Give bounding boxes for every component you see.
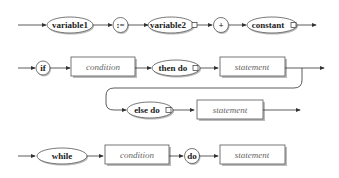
node-variable1: variable1	[47, 17, 94, 35]
node-statement-else: statement	[197, 100, 265, 121]
label-while: while	[52, 151, 73, 161]
row-if: if condition then do statement else do	[18, 57, 324, 121]
node-plus: +	[214, 18, 230, 35]
label-do: do	[187, 151, 197, 161]
node-else-do: else do	[127, 102, 174, 120]
label-condition: condition	[86, 62, 120, 72]
node-then-do: then do	[152, 60, 201, 78]
row-while: while condition do statement	[18, 145, 287, 166]
node-assign: :=	[113, 18, 129, 35]
label-constant: constant	[252, 20, 285, 30]
square-icon	[291, 23, 296, 28]
syntax-diagram: variable1 := variable2 + constant	[0, 0, 339, 178]
square-icon	[192, 23, 197, 28]
node-statement-then: statement	[220, 57, 287, 78]
label-then-do: then do	[159, 63, 188, 73]
label-assign: :=	[116, 20, 124, 30]
node-if: if	[36, 61, 51, 77]
node-condition-while: condition	[105, 145, 171, 166]
label-plus: +	[218, 20, 223, 30]
node-do: do	[185, 149, 201, 166]
label-condition: condition	[120, 150, 154, 160]
label-variable2: variable2	[150, 20, 186, 30]
node-statement-while: statement	[220, 145, 287, 166]
node-while: while	[37, 148, 88, 166]
label-statement: statement	[213, 105, 248, 115]
label-variable1: variable1	[52, 20, 88, 30]
node-condition: condition	[71, 57, 137, 78]
square-icon	[193, 66, 198, 71]
square-icon	[166, 108, 171, 113]
row-assignment: variable1 := variable2 + constant	[18, 17, 316, 35]
label-statement: statement	[235, 62, 270, 72]
node-variable2: variable2	[148, 17, 197, 35]
node-constant: constant	[247, 17, 298, 35]
label-statement: statement	[235, 150, 270, 160]
label-else-do: else do	[134, 105, 160, 115]
